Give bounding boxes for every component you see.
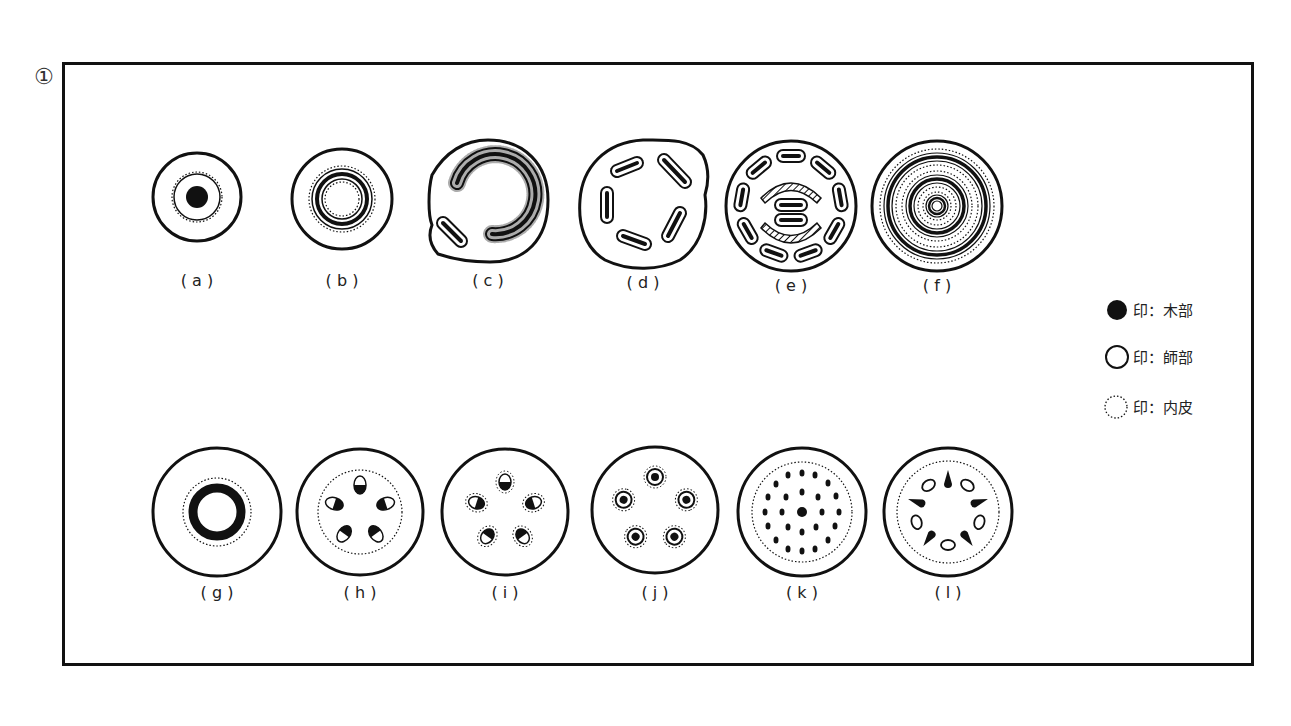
endodermis-legend-icon bbox=[1105, 396, 1127, 418]
panel-g: ( g ) bbox=[153, 448, 281, 602]
legend: 印：木部 印：師部 印：内皮 bbox=[1105, 300, 1193, 418]
panel-f: ( f ) bbox=[872, 141, 1002, 295]
panel-label-d: ( d ) bbox=[627, 273, 660, 292]
panel-k: ( k ) bbox=[738, 448, 866, 602]
phloem-legend-icon bbox=[1106, 346, 1128, 368]
panel-h: ( h ) bbox=[297, 449, 423, 602]
stele-diagram: ( a ) ( b ) ( c ) bbox=[0, 0, 1291, 726]
panel-label-k: ( k ) bbox=[786, 583, 818, 602]
panel-label-f: ( f ) bbox=[923, 276, 951, 295]
panel-label-g: ( g ) bbox=[201, 583, 234, 602]
legend-endodermis-text: 印：内皮 bbox=[1133, 399, 1193, 417]
panel-j: ( j ) bbox=[592, 447, 718, 602]
legend-xylem-text: 印：木部 bbox=[1133, 302, 1193, 320]
panel-label-i: ( i ) bbox=[491, 583, 518, 602]
panel-b: ( b ) bbox=[292, 149, 392, 290]
panel-label-b: ( b ) bbox=[326, 271, 359, 290]
panel-label-h: ( h ) bbox=[344, 583, 377, 602]
panel-label-j: ( j ) bbox=[641, 583, 668, 602]
panel-l: ( l ) bbox=[884, 448, 1012, 602]
xylem-icon bbox=[186, 186, 208, 208]
panel-label-c: ( c ) bbox=[472, 271, 503, 290]
panel-a: ( a ) bbox=[153, 153, 241, 290]
xylem-legend-icon bbox=[1107, 300, 1127, 320]
panel-e: ( e ) bbox=[726, 141, 856, 295]
panel-c: ( c ) bbox=[429, 140, 548, 290]
panel-i: ( i ) bbox=[442, 449, 568, 602]
panel-label-e: ( e ) bbox=[775, 276, 808, 295]
legend-phloem-text: 印：師部 bbox=[1133, 349, 1193, 367]
panel-label-a: ( a ) bbox=[181, 271, 213, 290]
panel-label-l: ( l ) bbox=[934, 583, 961, 602]
panel-d: ( d ) bbox=[580, 140, 708, 292]
